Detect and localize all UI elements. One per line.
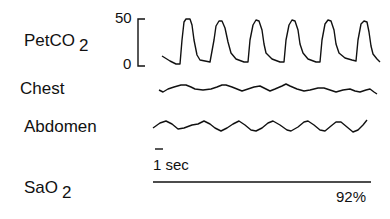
waveform-plot bbox=[0, 0, 390, 219]
petco2-waveform bbox=[162, 19, 380, 64]
chest-waveform bbox=[159, 84, 377, 94]
abdomen-waveform bbox=[153, 120, 367, 132]
petco2-scale-bracket bbox=[138, 19, 145, 66]
